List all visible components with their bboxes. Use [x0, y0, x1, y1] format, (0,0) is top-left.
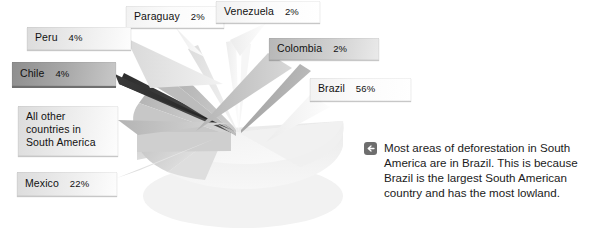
- caption-block: Most areas of deforestation in South Ame…: [364, 140, 608, 200]
- pie-label-chile[interactable]: Chile 4%: [12, 62, 116, 86]
- pie-label-brazil-percent: 56%: [356, 83, 375, 95]
- pie-label-all-other-line3: South America: [26, 136, 111, 149]
- pie-label-brazil[interactable]: Brazil 56%: [310, 78, 411, 101]
- pie-label-mexico[interactable]: Mexico 22%: [17, 172, 117, 196]
- pie-label-chile-percent: 4%: [55, 68, 69, 80]
- pie-label-all-other-line1: All other: [26, 110, 111, 123]
- pie-label-all-other-line2: countries in: [26, 123, 111, 136]
- pie-label-peru-percent: 4%: [69, 32, 83, 44]
- connector-peru: [126, 38, 223, 88]
- pie-label-peru-name: Peru: [35, 31, 58, 44]
- pie-label-colombia-percent: 2%: [333, 43, 347, 55]
- pie-label-paraguay-percent: 2%: [191, 11, 205, 23]
- pie-label-peru[interactable]: Peru 4%: [27, 27, 131, 50]
- pie-label-colombia[interactable]: Colombia 2%: [269, 38, 379, 60]
- pie-label-brazil-name: Brazil: [318, 82, 345, 95]
- pie-label-chile-name: Chile: [20, 67, 44, 80]
- pie-label-mexico-name: Mexico: [25, 177, 59, 190]
- pie-label-venezuela-name: Venezuela: [224, 5, 274, 18]
- pie-chart-figure: Paraguay 2% Venezuela 2% Peru 4% Colombi…: [0, 0, 611, 246]
- pie-slice-venezuela-top: [226, 40, 239, 132]
- pie-slice-all-other-side: [137, 132, 231, 152]
- back-arrow-icon: [364, 142, 377, 155]
- pie-label-mexico-percent: 22%: [70, 178, 89, 190]
- pie-label-venezuela[interactable]: Venezuela 2%: [216, 1, 320, 23]
- pie-label-all-other-countries[interactable]: All other countries in South America: [18, 106, 118, 156]
- pie-label-paraguay-name: Paraguay: [134, 10, 180, 23]
- pie-label-colombia-name: Colombia: [277, 42, 322, 55]
- caption-text: Most areas of deforestation in South Ame…: [384, 140, 608, 200]
- pie-label-paraguay[interactable]: Paraguay 2%: [126, 6, 224, 28]
- pie-label-venezuela-percent: 2%: [285, 6, 299, 18]
